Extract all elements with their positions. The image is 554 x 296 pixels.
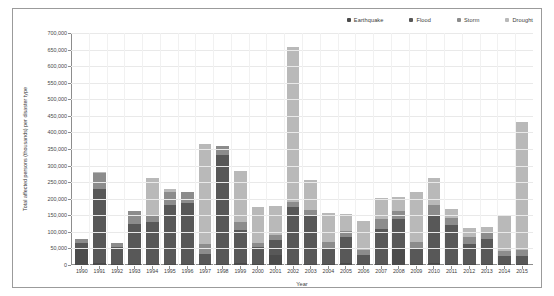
- bar-segment-drought[interactable]: [304, 180, 317, 210]
- bar-stack[interactable]: [410, 192, 423, 265]
- bar-segment-drought[interactable]: [516, 122, 529, 250]
- bar-stack[interactable]: [445, 209, 458, 265]
- bar-segment-drought[interactable]: [252, 207, 265, 243]
- bar-segment-storm[interactable]: [128, 211, 141, 224]
- bar-stack[interactable]: [128, 211, 141, 265]
- bar-stack[interactable]: [199, 144, 212, 265]
- bar-stack[interactable]: [146, 178, 159, 265]
- bar-segment-earthquake[interactable]: [287, 264, 300, 265]
- bar-segment-earthquake[interactable]: [93, 263, 106, 265]
- bar-segment-earthquake[interactable]: [340, 263, 353, 265]
- bar-segment-flood[interactable]: [164, 205, 177, 264]
- bar-segment-flood[interactable]: [181, 203, 194, 264]
- bar-segment-flood[interactable]: [516, 256, 529, 264]
- bar-segment-earthquake[interactable]: [234, 263, 247, 265]
- bar-stack[interactable]: [234, 171, 247, 265]
- bar-stack[interactable]: [322, 213, 335, 265]
- y-axis-tick-mark: [68, 166, 71, 167]
- bar-segment-storm[interactable]: [445, 218, 458, 225]
- bar-segment-flood[interactable]: [93, 189, 106, 264]
- gridline-vertical: [124, 33, 125, 265]
- bar-segment-earthquake[interactable]: [252, 264, 265, 265]
- bar-segment-flood[interactable]: [480, 239, 493, 265]
- bar-segment-flood[interactable]: [375, 229, 388, 264]
- bar-segment-flood[interactable]: [392, 219, 405, 249]
- bar-segment-drought[interactable]: [445, 209, 458, 218]
- bar-segment-earthquake[interactable]: [146, 264, 159, 265]
- bar-segment-flood[interactable]: [463, 244, 476, 264]
- legend-item-flood[interactable]: Flood: [409, 17, 431, 23]
- bar-segment-flood[interactable]: [234, 230, 247, 263]
- bar-segment-earthquake[interactable]: [199, 264, 212, 265]
- bar-segment-flood[interactable]: [322, 249, 335, 264]
- bar-segment-storm[interactable]: [428, 205, 441, 215]
- bar-segment-flood[interactable]: [410, 249, 423, 264]
- y-axis-tick-mark: [68, 232, 71, 233]
- bar-segment-flood[interactable]: [340, 237, 353, 264]
- bar-segment-drought[interactable]: [357, 221, 370, 250]
- bar-stack[interactable]: [498, 216, 511, 265]
- bar-segment-drought[interactable]: [498, 216, 511, 251]
- bar-stack[interactable]: [181, 192, 194, 265]
- bar-segment-storm[interactable]: [181, 192, 194, 203]
- bar-stack[interactable]: [111, 243, 124, 265]
- bar-segment-flood[interactable]: [428, 215, 441, 263]
- bar-stack[interactable]: [428, 178, 441, 265]
- bar-segment-drought[interactable]: [322, 213, 335, 243]
- bar-segment-earthquake[interactable]: [428, 263, 441, 265]
- bar-segment-earthquake[interactable]: [357, 264, 370, 265]
- bar-segment-drought[interactable]: [234, 171, 247, 222]
- legend-item-storm[interactable]: Storm: [457, 17, 479, 23]
- bar-stack[interactable]: [93, 172, 106, 265]
- bar-segment-earthquake[interactable]: [463, 264, 476, 265]
- bar-stack[interactable]: [304, 180, 317, 265]
- bar-segment-drought[interactable]: [199, 144, 212, 243]
- x-axis-tick-cell: 1998: [214, 266, 232, 282]
- bar-stack[interactable]: [357, 221, 370, 265]
- bar-segment-flood[interactable]: [445, 225, 458, 265]
- chart-screenshot: EarthquakeFloodStormDrought Total affect…: [0, 0, 554, 296]
- bar-segment-storm[interactable]: [216, 146, 229, 154]
- bar-segment-earthquake[interactable]: [164, 264, 177, 265]
- bar-stack[interactable]: [75, 239, 88, 265]
- bar-segment-earthquake[interactable]: [304, 264, 317, 265]
- bar-segment-flood[interactable]: [128, 224, 141, 264]
- gridline-vertical: [160, 33, 161, 265]
- bar-segment-earthquake[interactable]: [181, 264, 194, 265]
- bar-segment-flood[interactable]: [498, 256, 511, 264]
- bar-segment-earthquake[interactable]: [516, 264, 529, 265]
- bar-segment-earthquake[interactable]: [111, 264, 124, 265]
- bar-segment-earthquake[interactable]: [75, 248, 88, 265]
- bar-segment-storm[interactable]: [93, 173, 106, 189]
- bar-segment-earthquake[interactable]: [392, 249, 405, 265]
- bar-segment-earthquake[interactable]: [322, 264, 335, 265]
- legend-item-earthquake[interactable]: Earthquake: [347, 17, 384, 23]
- bar-segment-storm[interactable]: [375, 219, 388, 229]
- bar-stack[interactable]: [216, 146, 229, 265]
- bar-stack[interactable]: [340, 214, 353, 265]
- bar-segment-flood[interactable]: [111, 247, 124, 264]
- bar-segment-earthquake[interactable]: [480, 264, 493, 265]
- bar-segment-drought[interactable]: [287, 47, 300, 203]
- bar-segment-storm[interactable]: [463, 237, 476, 244]
- bar-segment-earthquake[interactable]: [216, 264, 229, 265]
- bar-segment-drought[interactable]: [146, 178, 159, 216]
- x-axis-tick-cell: 1996: [179, 266, 197, 282]
- bar-segment-flood[interactable]: [357, 255, 370, 264]
- legend-item-drought[interactable]: Drought: [505, 17, 533, 23]
- bar-segment-flood[interactable]: [146, 222, 159, 264]
- bar-segment-flood[interactable]: [304, 216, 317, 264]
- bar-segment-earthquake[interactable]: [269, 255, 282, 265]
- bar-segment-earthquake[interactable]: [445, 264, 458, 265]
- bar-segment-earthquake[interactable]: [375, 264, 388, 265]
- bar-stack[interactable]: [463, 228, 476, 265]
- x-axis-tick-cell: 2012: [460, 266, 478, 282]
- bar-segment-flood[interactable]: [199, 254, 212, 264]
- bar-stack[interactable]: [164, 189, 177, 265]
- bar-segment-storm[interactable]: [234, 222, 247, 230]
- bar-segment-drought[interactable]: [269, 206, 282, 235]
- bar-stack[interactable]: [516, 122, 529, 265]
- bar-segment-earthquake[interactable]: [498, 264, 511, 265]
- bar-segment-earthquake[interactable]: [410, 264, 423, 265]
- bar-segment-earthquake[interactable]: [128, 264, 141, 265]
